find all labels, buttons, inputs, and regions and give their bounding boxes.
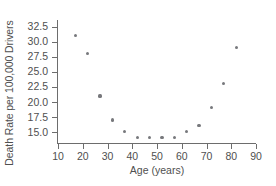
data-point — [136, 136, 139, 139]
y-axis-tick-label: 32.5 — [8, 21, 48, 32]
plot-area — [58, 20, 256, 143]
data-point — [160, 136, 163, 139]
y-axis-tick-label: 22.5 — [8, 81, 48, 92]
x-axis-tick — [157, 144, 158, 149]
x-axis-tick — [207, 144, 208, 149]
y-axis-tick-label: 20.0 — [8, 97, 48, 108]
data-point — [173, 136, 176, 139]
y-axis-tick-label: 17.5 — [8, 112, 48, 123]
scatter-plot-figure: Death Rate per 100,000 Drivers 15.017.52… — [0, 0, 276, 186]
x-axis-tick — [108, 144, 109, 149]
data-point — [197, 124, 200, 127]
y-axis-tick — [52, 27, 57, 28]
y-axis-tick-label: 27.5 — [8, 51, 48, 62]
y-axis-tick — [52, 57, 57, 58]
data-point — [111, 118, 114, 121]
data-point — [235, 46, 238, 49]
data-point — [98, 94, 101, 97]
y-axis-tick-label: 30.0 — [8, 36, 48, 47]
y-axis-tick — [52, 117, 57, 118]
y-axis-tick-label: 25.0 — [8, 66, 48, 77]
y-axis-tick — [52, 42, 57, 43]
y-axis-tick — [52, 87, 57, 88]
y-axis-tick-label: 15.0 — [8, 127, 48, 138]
y-axis-tick — [52, 132, 57, 133]
x-axis-tick — [132, 144, 133, 149]
y-axis-tick — [52, 72, 57, 73]
x-axis-tick — [58, 144, 59, 149]
x-axis-tick — [256, 144, 257, 149]
data-point — [210, 106, 213, 109]
x-axis-tick — [231, 144, 232, 149]
x-axis-tick — [83, 144, 84, 149]
y-axis-tick — [52, 102, 57, 103]
x-axis-title: Age (years) — [58, 164, 256, 176]
x-axis-tick — [182, 144, 183, 149]
x-axis-tick-label: 90 — [241, 151, 271, 162]
